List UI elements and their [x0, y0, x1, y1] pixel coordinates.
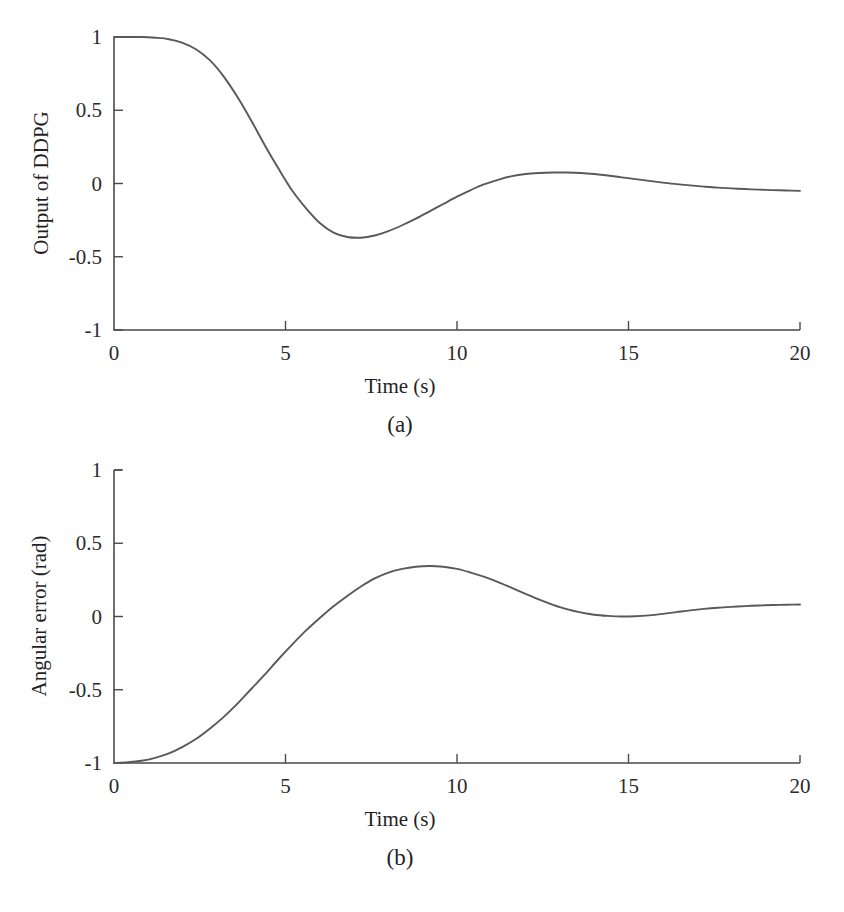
- figure-page: Output of DDPG -1-0.500.51 05101520 Time…: [0, 0, 844, 912]
- x-tick-label: 10: [447, 774, 468, 798]
- x-tick-label: 15: [618, 341, 639, 365]
- x-tick-label: 20: [790, 341, 811, 365]
- x-tick-label: 20: [790, 774, 811, 798]
- x-tick-label: 10: [447, 341, 468, 365]
- x-tick-group-b: 05101520: [109, 754, 811, 798]
- y-tick-label: -0.5: [69, 678, 102, 702]
- x-axis-title-a: Time (s): [365, 374, 436, 398]
- axis-lines-b: [114, 470, 800, 763]
- y-tick-label: -0.5: [69, 245, 102, 269]
- x-tick-label: 0: [109, 774, 120, 798]
- x-tick-label: 5: [280, 774, 291, 798]
- x-tick-label: 5: [280, 341, 291, 365]
- y-axis-title-b: Angular error (rad): [27, 536, 51, 697]
- y-tick-label: 0: [92, 172, 103, 196]
- y-axis-title-a: Output of DDPG: [29, 111, 53, 255]
- axis-lines-a: [114, 37, 800, 330]
- y-tick-label: 0.5: [76, 98, 102, 122]
- y-tick-label: 1: [92, 458, 103, 482]
- y-tick-group-a: -1-0.500.51: [69, 25, 123, 342]
- panel-caption-b: (b): [387, 845, 414, 870]
- data-curve-a: [114, 37, 800, 238]
- chart-b-svg: Angular error (rad) -1-0.500.51 05101520…: [0, 440, 844, 912]
- chart-panel-a: Output of DDPG -1-0.500.51 05101520 Time…: [0, 0, 844, 456]
- y-tick-label: 0: [92, 605, 103, 629]
- data-curve-b: [114, 566, 800, 763]
- y-tick-label: -1: [85, 751, 103, 775]
- chart-a-svg: Output of DDPG -1-0.500.51 05101520 Time…: [0, 0, 844, 456]
- x-tick-label: 15: [618, 774, 639, 798]
- x-tick-group-a: 05101520: [109, 321, 811, 365]
- panel-caption-a: (a): [387, 412, 413, 437]
- y-tick-group-b: -1-0.500.51: [69, 458, 123, 775]
- y-tick-label: 1: [92, 25, 103, 49]
- y-tick-label: -1: [85, 318, 103, 342]
- x-tick-label: 0: [109, 341, 120, 365]
- y-tick-label: 0.5: [76, 531, 102, 555]
- chart-panel-b: Angular error (rad) -1-0.500.51 05101520…: [0, 440, 844, 912]
- x-axis-title-b: Time (s): [365, 807, 436, 831]
